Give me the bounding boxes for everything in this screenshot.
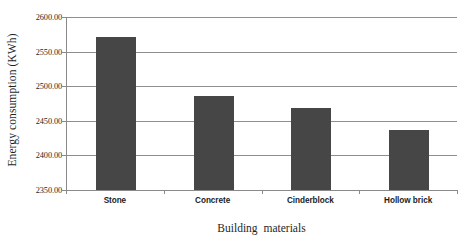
y-axis-tick-mark [61,121,66,122]
x-axis-title: Building materials [66,222,457,234]
y-axis-title-text: Energy consumption (KWh) [6,33,18,166]
plot-area [66,17,457,190]
x-axis-category-label: Cinderblock [287,196,334,205]
bar [194,96,234,190]
x-axis-tick-mark [457,190,458,194]
y-axis-tick-labels: 2600.002550.002500.002450.002400.002350.… [22,0,64,251]
y-axis-tick-mark [61,17,66,18]
x-axis-tick-mark [359,190,360,194]
bar [291,108,331,190]
x-axis-category-label: Hollow brick [384,196,432,205]
x-axis-tick-mark [164,190,165,194]
y-axis-tick-label: 2400.00 [36,151,62,160]
y-axis-tick-label: 2350.00 [36,186,62,195]
x-axis-category-label: Stone [104,196,127,205]
x-axis-category-label: Concrete [195,196,230,205]
x-axis-tick-mark [66,190,67,194]
y-axis-tick-mark [61,155,66,156]
y-axis-tick-mark [61,52,66,53]
y-axis-tick-label: 2600.00 [36,13,62,22]
bar-series [67,17,457,190]
bar [389,130,429,190]
y-axis-tick-mark [61,190,66,191]
y-axis-tick-label: 2450.00 [36,116,62,125]
bar [96,37,136,190]
y-axis-tick-mark [61,86,66,87]
y-axis-title: Energy consumption (KWh) [0,0,24,200]
x-axis-tick-mark [262,190,263,194]
y-axis-tick-label: 2550.00 [36,47,62,56]
y-axis-tick-label: 2500.00 [36,82,62,91]
bar-chart-figure: Energy consumption (KWh) 2600.002550.002… [0,0,472,251]
